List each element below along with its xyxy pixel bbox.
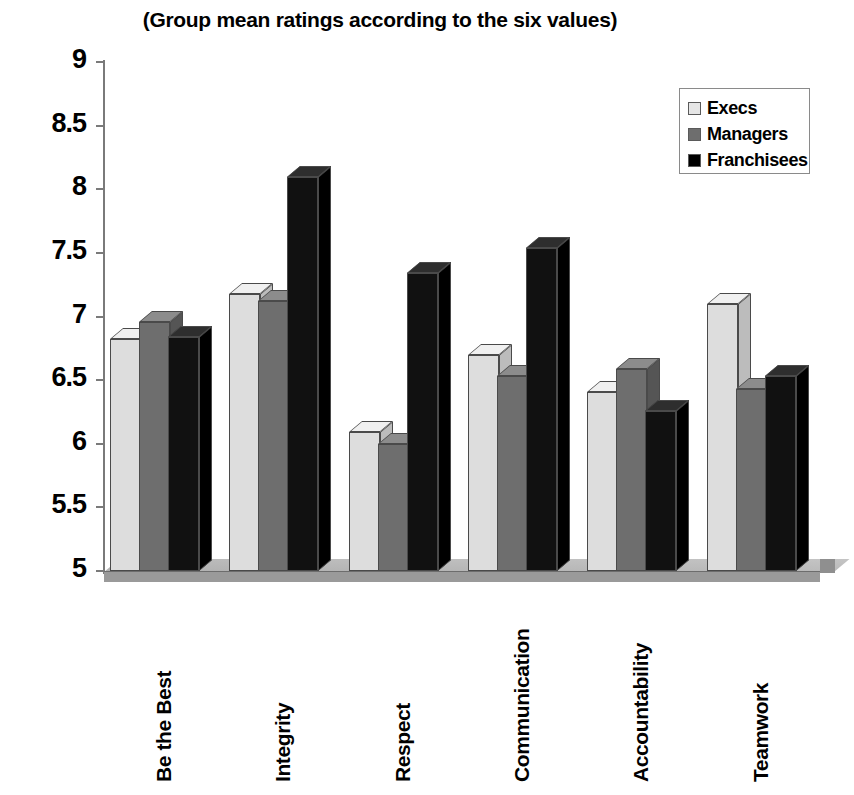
bar-front-face: [736, 389, 767, 571]
bar-front-face: [407, 273, 438, 571]
bar-franchisees-3: [526, 248, 557, 571]
bar-front-face: [616, 369, 647, 571]
bar-franchisees-4: [645, 411, 676, 571]
bar-side-face: [796, 365, 809, 571]
chart-floor-front: [104, 571, 820, 582]
category-label-5: Teamwork: [749, 683, 773, 782]
y-axis-tick-label: 7.5: [0, 237, 86, 264]
legend-label-execs: Execs: [707, 98, 757, 119]
legend-item-franchisees[interactable]: Franchisees: [688, 147, 809, 173]
bar-front-face: [168, 337, 199, 571]
y-axis-tick-label: 6: [0, 428, 86, 455]
bar-managers-2: [378, 444, 409, 571]
y-axis-tick-label: 8.5: [0, 110, 86, 137]
bar-front-face: [526, 248, 557, 571]
y-axis-tick-label: 5.5: [0, 491, 86, 518]
legend-swatch-franchisees: [688, 154, 701, 167]
bar-front-face: [645, 411, 676, 571]
bar-side-face: [557, 237, 570, 571]
bar-chart: (Group mean ratings according to the six…: [0, 0, 854, 795]
y-axis-tick-mark: [96, 443, 104, 445]
bar-franchisees-1: [287, 177, 318, 571]
y-axis-tick-mark: [96, 188, 104, 190]
bar-front-face: [765, 376, 796, 571]
bar-front-face: [497, 376, 528, 571]
bar-side-face: [438, 262, 451, 571]
bar-execs-1: [229, 294, 260, 571]
bar-front-face: [229, 294, 260, 571]
category-label-1: Integrity: [271, 703, 295, 782]
legend-label-franchisees: Franchisees: [707, 150, 808, 171]
bar-execs-3: [468, 355, 499, 571]
bar-front-face: [258, 301, 289, 571]
bar-franchisees-5: [765, 376, 796, 571]
y-axis-tick-mark: [96, 61, 104, 63]
y-axis-tick-label: 8: [0, 173, 86, 200]
y-axis-tick-label: 7: [0, 301, 86, 328]
y-axis-tick-label: 9: [0, 46, 86, 73]
bar-side-face: [676, 400, 689, 571]
category-label-4: Accountability: [629, 643, 653, 782]
bar-franchisees-2: [407, 273, 438, 571]
bar-execs-0: [110, 339, 141, 571]
bar-managers-0: [139, 322, 170, 571]
y-axis-tick-mark: [96, 316, 104, 318]
legend-swatch-execs: [688, 102, 701, 115]
y-axis-tick-mark: [96, 252, 104, 254]
bar-managers-4: [616, 369, 647, 571]
bar-front-face: [139, 322, 170, 571]
bar-front-face: [587, 392, 618, 571]
category-label-0: Be the Best: [152, 671, 176, 782]
bar-side-face: [199, 326, 212, 571]
bar-side-face: [318, 166, 331, 571]
bar-front-face: [468, 355, 499, 571]
y-axis-tick-mark: [96, 125, 104, 127]
y-axis-tick-label: 5: [0, 555, 86, 582]
bar-execs-5: [707, 304, 738, 571]
y-axis-tick-mark: [96, 379, 104, 381]
bar-front-face: [110, 339, 141, 571]
legend-item-execs[interactable]: Execs: [688, 95, 809, 121]
bar-front-face: [349, 432, 380, 571]
category-label-3: Communication: [510, 629, 534, 782]
chart-floor-right-edge: [820, 559, 835, 573]
bar-front-face: [707, 304, 738, 571]
bar-managers-1: [258, 301, 289, 571]
chart-legend: Execs Managers Franchisees: [679, 88, 810, 174]
chart-title: (Group mean ratings according to the six…: [0, 8, 760, 32]
legend-item-managers[interactable]: Managers: [688, 121, 809, 147]
bar-managers-3: [497, 376, 528, 571]
bar-execs-2: [349, 432, 380, 571]
legend-swatch-managers: [688, 128, 701, 141]
bar-franchisees-0: [168, 337, 199, 571]
bar-execs-4: [587, 392, 618, 571]
bar-managers-5: [736, 389, 767, 571]
y-axis-tick-label: 6.5: [0, 364, 86, 391]
y-axis-tick-mark: [96, 506, 104, 508]
legend-label-managers: Managers: [707, 124, 788, 145]
bar-front-face: [378, 444, 409, 571]
category-label-2: Respect: [391, 703, 415, 782]
bar-front-face: [287, 177, 318, 571]
